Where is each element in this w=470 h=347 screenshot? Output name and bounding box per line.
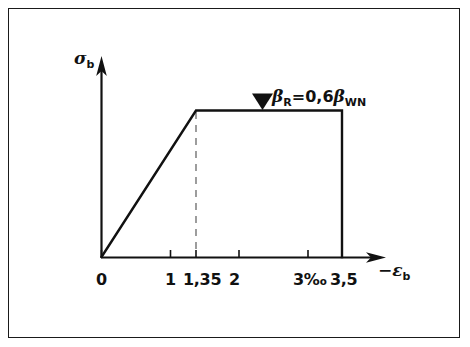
x-tick-label-1: 1 bbox=[165, 272, 176, 288]
x-tick-label-2: 2 bbox=[229, 272, 240, 288]
x-axis-label-symbol: ε bbox=[392, 260, 402, 280]
x-tick-label-135: 1,35 bbox=[183, 272, 221, 288]
plateau-annotation: βR=0,6βWN bbox=[272, 88, 366, 108]
annotation-beta-r-subscript: R bbox=[283, 96, 291, 109]
annotation-beta-wn-symbol: β bbox=[334, 86, 345, 106]
y-axis-label: σb bbox=[74, 50, 94, 70]
x-axis-label-subscript: b bbox=[403, 270, 411, 283]
figure-root: σb −εb βR=0,6βWN 0 1 1,35 2 3‰ 3,5 bbox=[0, 0, 470, 347]
stress-strain-curve bbox=[102, 111, 343, 258]
annotation-beta-wn-subscript: WN bbox=[345, 96, 366, 109]
x-axis-label-prefix: − bbox=[378, 260, 392, 280]
annotation-equals: = bbox=[292, 87, 305, 106]
y-axis-label-subscript: b bbox=[87, 58, 95, 71]
annotation-triangle-icon bbox=[252, 94, 273, 111]
x-tick-label-0: 0 bbox=[96, 272, 107, 288]
x-axis-label: −εb bbox=[378, 262, 410, 282]
x-tick-label-35: 3,5 bbox=[330, 272, 357, 288]
annotation-factor: 0,6 bbox=[305, 87, 333, 106]
diagram-canvas bbox=[0, 0, 470, 347]
x-tick-label-3: 3‰ bbox=[293, 272, 327, 288]
annotation-beta-r-symbol: β bbox=[272, 86, 283, 106]
y-axis-label-symbol: σ bbox=[74, 48, 87, 68]
